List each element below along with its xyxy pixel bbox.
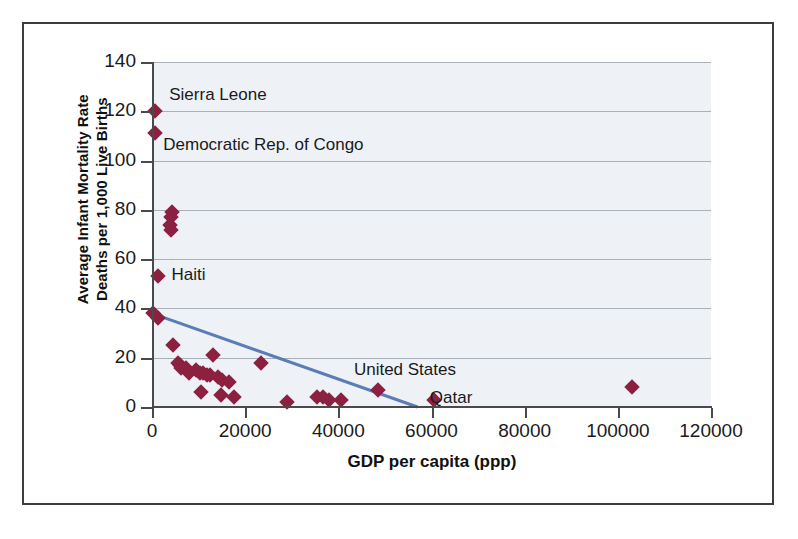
y-tick-label: 80 [78,198,136,220]
y-axis-line [152,62,154,408]
y-tick-label: 140 [78,50,136,72]
y-tick-mark [141,161,152,163]
y-tick-mark [141,62,152,64]
x-tick-label: 120000 [679,420,742,442]
point-annotation-label: Democratic Rep. of Congo [163,135,363,155]
point-annotation-label: Haiti [172,265,206,285]
x-tick-label: 0 [147,420,158,442]
y-tick-label: 40 [78,296,136,318]
trendline [152,62,711,407]
y-tick-mark [141,407,152,409]
y-tick-label: 100 [78,149,136,171]
x-tick-mark [711,408,713,418]
chart-figure: Average Infant Mortality Rate Deaths per… [0,0,798,539]
y-tick-mark [141,358,152,360]
y-tick-mark [141,210,152,212]
point-annotation-label: United States [354,360,456,380]
x-tick-label: 40000 [312,420,365,442]
y-tick-label: 60 [78,247,136,269]
point-annotation-label: Sierra Leone [169,85,266,105]
y-tick-label: 120 [78,99,136,121]
x-tick-label: 80000 [498,420,551,442]
y-tick-label: 0 [78,395,136,417]
y-tick-mark [141,111,152,113]
plot-area [152,62,711,407]
x-tick-mark [525,408,527,418]
x-tick-mark [152,408,154,418]
x-axis-title: GDP per capita (ppp) [152,452,712,472]
x-tick-mark [618,408,620,418]
y-tick-mark [141,308,152,310]
x-tick-mark [245,408,247,418]
x-tick-mark [338,408,340,418]
y-tick-label: 20 [78,346,136,368]
y-tick-mark [141,259,152,261]
x-tick-mark [432,408,434,418]
point-annotation-label: Qatar [430,388,473,408]
x-tick-label: 20000 [219,420,272,442]
x-tick-label: 100000 [586,420,649,442]
x-tick-label: 60000 [405,420,458,442]
